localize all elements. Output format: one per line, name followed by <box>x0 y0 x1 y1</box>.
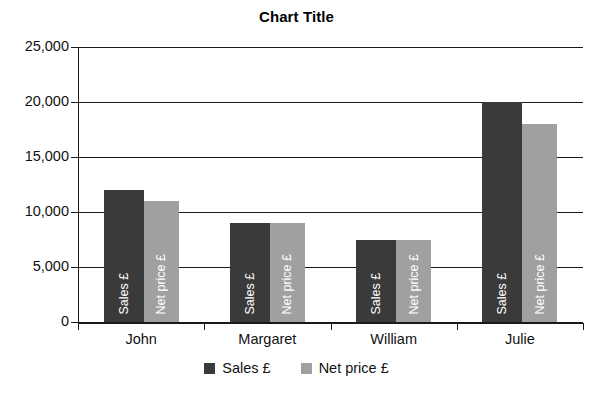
x-tick-mark <box>78 323 79 330</box>
bar-inner-label: Sales £ <box>370 272 383 314</box>
x-tick-label: Julie <box>457 331 583 347</box>
bar-inner-label: Net price £ <box>281 254 294 314</box>
bar-inner-label: Sales £ <box>496 272 509 314</box>
bar: Net price £ <box>144 201 179 322</box>
bar-inner-label: Net price £ <box>407 254 420 314</box>
legend-item[interactable]: Sales £ <box>204 360 270 376</box>
bar-inner-label: Net price £ <box>155 254 168 314</box>
bar: Sales £ <box>230 223 270 322</box>
bar: Sales £ <box>104 190 144 322</box>
y-tick-mark <box>71 212 79 213</box>
y-axis-line <box>78 47 79 323</box>
legend-item[interactable]: Net price £ <box>301 360 389 376</box>
bar: Net price £ <box>396 240 431 323</box>
x-tick-mark <box>583 323 584 330</box>
bar-inner-label: Sales £ <box>117 272 130 314</box>
legend-label: Sales £ <box>222 360 270 376</box>
legend-swatch-icon <box>204 363 215 374</box>
bar-inner-label: Sales £ <box>244 272 257 314</box>
chart-title: Chart Title <box>0 8 593 25</box>
y-tick-label: 20,000 <box>0 94 69 109</box>
bar-inner-label: Net price £ <box>534 254 547 314</box>
y-tick-label: 15,000 <box>0 149 69 164</box>
x-tick-label: William <box>331 331 457 347</box>
bar: Sales £ <box>482 102 522 322</box>
x-tick-label: Margaret <box>204 331 330 347</box>
gridline <box>78 47 583 48</box>
bar-chart: Chart Title 05,00010,00015,00020,00025,0… <box>0 0 593 394</box>
y-tick-mark <box>71 102 79 103</box>
y-tick-mark <box>71 267 79 268</box>
y-tick-mark <box>71 157 79 158</box>
y-tick-label: 10,000 <box>0 204 69 219</box>
legend-label: Net price £ <box>319 360 389 376</box>
y-tick-label: 5,000 <box>0 259 69 274</box>
x-tick-mark <box>457 323 458 330</box>
x-tick-mark <box>331 323 332 330</box>
x-tick-label: John <box>78 331 204 347</box>
y-tick-mark <box>71 47 79 48</box>
chart-legend: Sales £Net price £ <box>0 360 593 376</box>
y-tick-label: 0 <box>0 314 69 329</box>
legend-swatch-icon <box>301 363 312 374</box>
bar: Net price £ <box>522 124 557 322</box>
bar: Sales £ <box>356 240 396 323</box>
bar: Net price £ <box>270 223 305 322</box>
x-tick-mark <box>204 323 205 330</box>
y-tick-label: 25,000 <box>0 39 69 54</box>
